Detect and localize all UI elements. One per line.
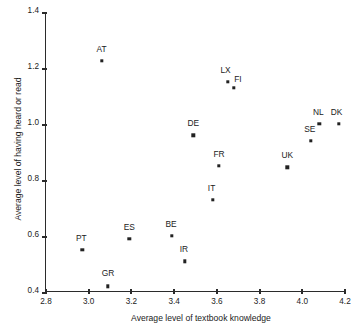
data-point-label-dk: DK	[331, 107, 343, 117]
y-axis-tick: 1.4	[42, 12, 47, 14]
data-point-at[interactable]	[100, 59, 103, 62]
data-point-gr[interactable]	[106, 285, 109, 288]
data-point-ir[interactable]	[183, 259, 186, 262]
data-point-es[interactable]	[128, 237, 131, 240]
x-axis-tick: 3.8	[259, 289, 261, 294]
x-axis-tick-label: 4.0	[297, 297, 308, 307]
data-point-label-es: ES	[124, 222, 135, 232]
data-point-be[interactable]	[170, 234, 173, 237]
data-point-nl[interactable]	[318, 122, 321, 125]
y-axis-tick: 0.6	[42, 236, 47, 238]
data-point-label-fr: FR	[213, 149, 224, 159]
x-axis-tick-label: 2.8	[40, 297, 51, 307]
data-point-pt[interactable]	[81, 248, 84, 251]
y-axis-tick-label: 1.4	[28, 6, 39, 16]
y-axis-tick: 1.2	[42, 68, 47, 70]
x-axis-tick: 2.8	[45, 289, 47, 294]
x-axis-tick-label: 3.2	[126, 297, 137, 307]
data-point-fi[interactable]	[232, 86, 235, 89]
y-axis-title: Average level of having heard or read	[13, 9, 23, 289]
data-point-label-it: IT	[208, 183, 215, 193]
y-axis-tick-label: 1.2	[28, 62, 39, 72]
x-axis-tick: 4.2	[344, 289, 346, 294]
data-point-de[interactable]	[192, 133, 195, 136]
x-axis-tick: 3.4	[173, 289, 175, 294]
data-point-lx[interactable]	[226, 80, 229, 83]
x-axis-tick: 3.6	[216, 289, 218, 294]
data-point-label-ir: IR	[180, 244, 188, 254]
y-axis-tick: 1.0	[42, 124, 47, 126]
data-point-fr[interactable]	[217, 164, 220, 167]
x-axis-tick-label: 3.4	[168, 297, 179, 307]
scatter-chart: 0.40.60.81.01.21.4 2.83.03.23.43.63.84.0…	[0, 0, 358, 333]
x-axis-title: Average level of textbook knowledge	[0, 313, 358, 323]
data-point-label-de: DE	[188, 118, 200, 128]
x-axis-tick-label: 3.8	[254, 297, 265, 307]
x-axis-tick-label: 3.0	[83, 297, 94, 307]
y-axis-tick-label: 0.8	[28, 174, 39, 184]
data-point-label-lx: LX	[220, 65, 230, 75]
y-axis-tick: 0.8	[42, 180, 47, 182]
plot-area: 0.40.60.81.01.21.4 2.83.03.23.43.63.84.0…	[45, 12, 344, 292]
data-point-label-gr: GR	[102, 268, 115, 278]
data-point-dk[interactable]	[337, 122, 340, 125]
y-axis-tick-label: 0.6	[28, 230, 39, 240]
x-axis-tick-label: 3.6	[211, 297, 222, 307]
x-axis-tick-label: 4.2	[339, 297, 350, 307]
y-axis-tick-label: 1.0	[28, 118, 39, 128]
data-point-label-uk: UK	[282, 150, 294, 160]
data-point-label-pt: PT	[76, 233, 87, 243]
data-point-label-be: BE	[165, 219, 176, 229]
data-point-uk[interactable]	[286, 166, 289, 169]
data-point-it[interactable]	[211, 198, 214, 201]
y-axis-tick-label: 0.4	[28, 286, 39, 296]
data-point-label-fi: FI	[234, 74, 241, 84]
data-point-se[interactable]	[309, 139, 312, 142]
data-point-label-at: AT	[96, 44, 106, 54]
x-axis-tick: 3.0	[88, 289, 90, 294]
data-point-label-nl: NL	[313, 107, 324, 117]
x-axis-tick: 4.0	[301, 289, 303, 294]
x-axis-tick: 3.2	[130, 289, 132, 294]
data-point-label-se: SE	[304, 124, 315, 134]
